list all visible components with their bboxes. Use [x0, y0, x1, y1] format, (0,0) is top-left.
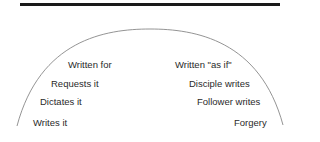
label-forgery: Forgery [234, 118, 267, 128]
label-requests-it: Requests it [51, 79, 99, 89]
label-disciple-writes: Disciple writes [189, 79, 250, 89]
label-writes-it: Writes it [33, 118, 67, 128]
label-dictates-it: Dictates it [40, 97, 82, 107]
label-written-as-if: Written "as if" [175, 60, 232, 70]
label-written-for: Written for [68, 60, 112, 70]
label-follower-writes: Follower writes [197, 97, 260, 107]
